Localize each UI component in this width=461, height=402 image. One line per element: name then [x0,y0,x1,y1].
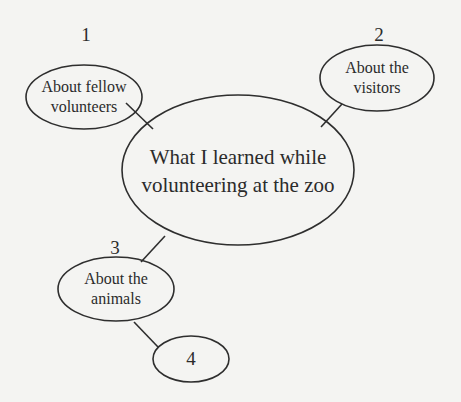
node-2-label: About the visitors [322,49,432,107]
center-label: What I learned while volunteering at the… [128,140,348,202]
node-1-line2: volunteers [51,97,118,117]
node-2-line1: About the [345,58,409,78]
node-1-label: About fellow volunteers [28,68,140,126]
node-4-label: 4 [153,338,229,380]
node-3-label: About the animals [60,260,172,318]
mind-map-canvas: 1 2 3 About fellow volunteers About the … [0,0,461,402]
node-4-line1: 4 [186,347,196,371]
node-2-number: 2 [369,24,389,46]
node-1-number: 1 [76,24,96,46]
node-3-number: 3 [105,237,125,259]
connector-2-center [321,104,342,127]
center-line2: volunteering at the zoo [141,171,334,199]
node-3-line2: animals [91,289,141,309]
connector-center-3 [141,236,165,262]
center-line1: What I learned while [150,143,327,171]
node-1-line1: About fellow [42,77,127,97]
node-3-line1: About the [84,269,148,289]
node-2-line2: visitors [353,78,400,98]
